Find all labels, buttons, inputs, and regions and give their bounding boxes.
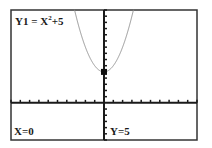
function-label: Y1 = X2+5 [15,14,64,27]
y-readout: Y=5 [110,125,130,137]
x-readout: X=0 [14,125,34,137]
trace-cursor[interactable] [101,69,107,75]
graph-screen: Y1 = X2+5 X=0 Y=5 [0,0,212,148]
